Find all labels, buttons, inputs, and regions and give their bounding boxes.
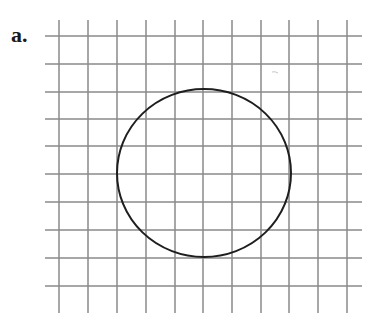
circle-shape (117, 89, 291, 257)
smudge-mark (272, 72, 278, 73)
grid-lines (45, 20, 362, 313)
grid-with-circle (0, 0, 389, 313)
